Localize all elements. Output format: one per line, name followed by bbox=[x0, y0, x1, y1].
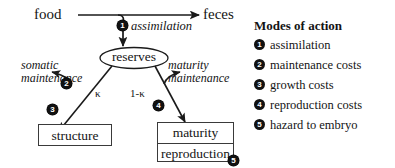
legend-label-growth-costs: growth costs bbox=[270, 78, 334, 93]
edge-label-somatic-maintenance: somatic maintenance bbox=[21, 59, 82, 84]
graph-badge-5-hazard: 5 bbox=[228, 155, 239, 166]
legend-label-maintenance-costs: maintenance costs bbox=[270, 58, 361, 73]
legend-label-assimilation: assimilation bbox=[270, 38, 330, 53]
legend-label-hazard-to-embryo: hazard to embryo bbox=[270, 118, 357, 133]
somatic-maintenance-line-2: maintenance bbox=[21, 72, 82, 85]
graph-badge-2-maintenance: 2 bbox=[61, 78, 72, 89]
maturity-maintenance-line-1: maturity bbox=[168, 59, 229, 72]
graph-badge-4-reproduction: 4 bbox=[153, 100, 164, 111]
graph-badge-3-growth: 3 bbox=[47, 104, 58, 115]
graph-badge-1-assimilation: 1 bbox=[117, 20, 128, 31]
edge-label-maturity-maintenance: maturity maintenance bbox=[168, 59, 229, 84]
box-row-maturity: maturity bbox=[158, 123, 233, 144]
edge-label-one-minus-kappa: 1-κ bbox=[130, 88, 145, 100]
edge-label-kappa: κ bbox=[95, 88, 101, 100]
node-label-food: food bbox=[34, 7, 62, 23]
somatic-maintenance-line-1: somatic bbox=[21, 59, 82, 72]
legend-badge-5-icon: 5 bbox=[254, 119, 265, 130]
legend-title: Modes of action bbox=[254, 18, 394, 34]
legend-item-growth-costs: 3 growth costs bbox=[254, 78, 394, 98]
legend-item-reproduction-costs: 4 reproduction costs bbox=[254, 98, 394, 118]
box-row-reproduction: reproduction bbox=[158, 144, 233, 164]
edge-label-assimilation: assimilation bbox=[131, 20, 192, 33]
legend-badge-3-icon: 3 bbox=[254, 79, 265, 90]
node-box-structure: structure bbox=[38, 124, 112, 146]
node-label-feces: feces bbox=[203, 7, 234, 23]
node-box-maturity-reproduction: maturity reproduction bbox=[157, 122, 234, 162]
node-label-reserves: reserves bbox=[103, 50, 165, 64]
legend-item-assimilation: 1 assimilation bbox=[254, 38, 394, 58]
legend-item-hazard-to-embryo: 5 hazard to embryo bbox=[254, 118, 394, 138]
legend-badge-4-icon: 4 bbox=[254, 99, 265, 110]
legend-label-reproduction-costs: reproduction costs bbox=[270, 98, 362, 113]
legend-badge-1-icon: 1 bbox=[254, 39, 265, 50]
deb-modes-of-action-figure: food feces assimilation reserves somatic… bbox=[0, 0, 395, 168]
legend-modes-of-action: Modes of action 1 assimilation 2 mainten… bbox=[254, 18, 394, 138]
maturity-maintenance-line-2: maintenance bbox=[168, 72, 229, 85]
legend-item-maintenance-costs: 2 maintenance costs bbox=[254, 58, 394, 78]
legend-badge-2-icon: 2 bbox=[254, 59, 265, 70]
